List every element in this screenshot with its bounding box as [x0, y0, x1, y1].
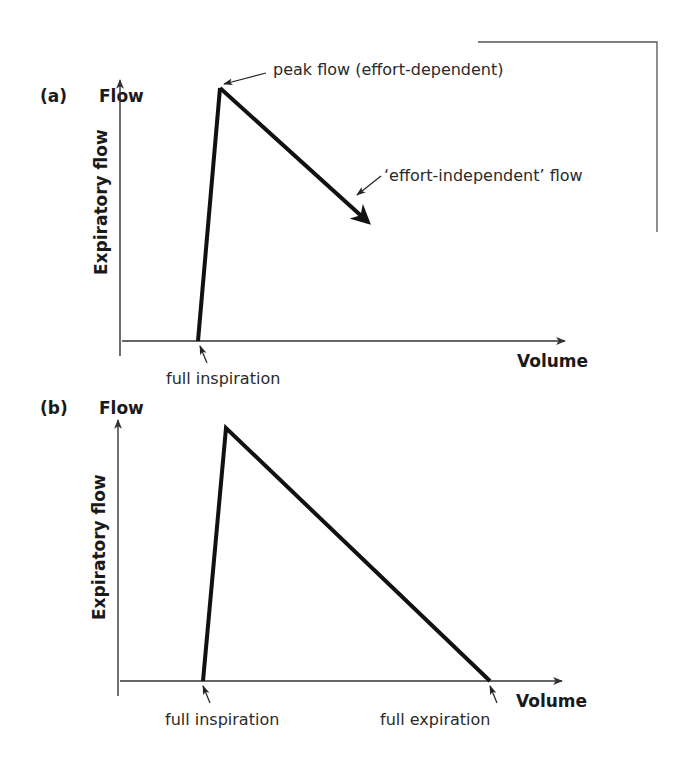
peak-flow-annotation: peak flow (effort-dependent) — [273, 60, 504, 79]
slope-pointer-arrow — [357, 176, 381, 195]
y-axis-label-a: Expiratory flow — [91, 129, 111, 275]
x-axis-label-a: Volume — [517, 351, 588, 371]
x-axis-label-b: Volume — [516, 691, 587, 711]
y-axis-top-label-b: Flow — [99, 398, 144, 418]
full-inspiration-pointer-b — [203, 686, 210, 703]
peak-pointer-arrow — [224, 73, 266, 84]
full-inspiration-pointer-a — [200, 346, 207, 363]
panel-a: (a) Flow Expiratory flow Volume peak flo… — [40, 60, 588, 388]
curve-rise-a — [198, 88, 220, 341]
y-axis-top-label-a: Flow — [99, 86, 144, 106]
panel-label-b: (b) — [40, 398, 68, 418]
effort-independent-annotation: ‘effort-independent’ flow — [384, 166, 583, 185]
full-expiration-annotation: full expiration — [380, 710, 490, 729]
panel-label-a: (a) — [40, 86, 67, 106]
panel-b: (b) Flow Expiratory flow Volume full ins… — [40, 398, 587, 729]
full-expiration-pointer — [490, 686, 497, 703]
full-inspiration-annotation-b: full inspiration — [165, 710, 279, 729]
frame-line — [478, 42, 657, 232]
full-inspiration-annotation-a: full inspiration — [166, 369, 280, 388]
curve-decline-arrow-a — [220, 88, 368, 222]
flow-volume-figure: (a) Flow Expiratory flow Volume peak flo… — [0, 0, 686, 778]
curve-b — [203, 428, 490, 681]
y-axis-label-b: Expiratory flow — [89, 474, 109, 620]
